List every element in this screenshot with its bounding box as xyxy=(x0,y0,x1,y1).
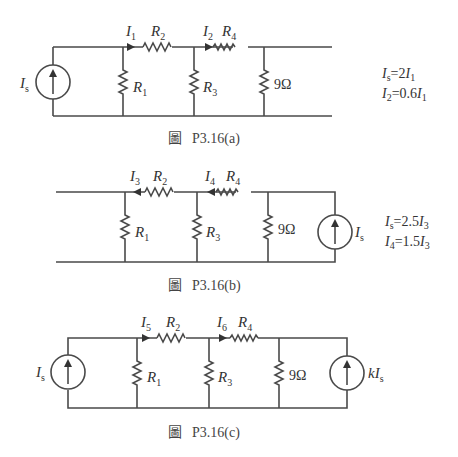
resistor-9ohm-icon xyxy=(275,338,283,408)
r4-label: R4 xyxy=(237,314,252,333)
circuit-b: R1 R2 I3 R3 I4 R4 9Ω Is Is=2.5I3 I4=1.5I… xyxy=(56,168,430,294)
resistor-r3-icon xyxy=(190,47,198,116)
arrow-right-icon xyxy=(127,43,135,51)
arrow-right-icon xyxy=(142,334,150,342)
r2-label: R2 xyxy=(150,23,165,42)
source-c-left-label: Is xyxy=(35,364,45,383)
resistor-r3-icon xyxy=(193,192,201,262)
r1-label: R1 xyxy=(134,224,149,243)
equation-2: I4=1.5I3 xyxy=(384,234,430,251)
caption-b: 圖P3.16(b) xyxy=(168,278,241,294)
equation-2: I2=0.6I1 xyxy=(381,86,427,103)
caption-c: 圖P3.16(c) xyxy=(168,425,240,441)
r4-label: R4 xyxy=(225,168,240,187)
i4-label: I4 xyxy=(204,168,215,187)
i6-label: I6 xyxy=(216,314,227,333)
i2-label: I2 xyxy=(202,23,213,42)
resistor-r3-icon xyxy=(205,338,213,408)
r1-label: R1 xyxy=(146,369,161,388)
resistor-9ohm-icon xyxy=(260,47,268,116)
source-a-label: Is xyxy=(19,75,29,94)
load-label: 9Ω xyxy=(289,368,306,383)
r3-label: R3 xyxy=(217,369,232,388)
resistor-r1-icon xyxy=(133,338,141,408)
equation-1: Is=2.5I3 xyxy=(384,214,429,231)
current-source-icon xyxy=(330,356,364,390)
caption-a: 圖P3.16(a) xyxy=(168,131,240,147)
arrow-left-icon xyxy=(207,188,215,196)
resistor-r4-icon xyxy=(230,335,258,341)
r3-label: R3 xyxy=(205,224,220,243)
i5-label: I5 xyxy=(140,314,151,333)
arrow-right-icon xyxy=(205,43,213,51)
source-b-label: Is xyxy=(354,224,364,243)
arrow-right-icon xyxy=(219,334,227,342)
source-c-right-label: kIs xyxy=(368,365,384,384)
r2-label: R2 xyxy=(152,168,167,187)
load-label: 9Ω xyxy=(278,222,295,237)
circuit-c: Is R1 I5 R2 R3 I6 R4 9Ω kIs 圖P3.16(c) xyxy=(35,314,384,441)
r4-label: R4 xyxy=(221,23,236,42)
i3-label: I3 xyxy=(129,168,140,187)
r3-label: R3 xyxy=(202,79,217,98)
resistor-r2-icon xyxy=(157,334,185,342)
resistor-r1-icon xyxy=(121,192,129,262)
r2-label: R2 xyxy=(165,314,180,333)
current-source-icon xyxy=(318,215,352,249)
resistor-r2-icon xyxy=(145,188,173,196)
resistor-r2-icon xyxy=(143,43,171,51)
resistor-9ohm-icon xyxy=(264,192,272,262)
resistor-r1-icon xyxy=(119,47,127,116)
load-label: 9Ω xyxy=(274,77,291,92)
equation-1: Is=2I1 xyxy=(381,66,415,83)
arrow-left-icon xyxy=(133,188,141,196)
current-source-icon xyxy=(36,65,70,99)
i1-label: I1 xyxy=(125,23,136,42)
circuit-a: Is R1 R2 I1 R3 I2 R4 9Ω Is=2I1 I2=0.6I1 … xyxy=(19,23,427,147)
current-source-icon xyxy=(51,355,85,389)
r1-label: R1 xyxy=(132,79,147,98)
